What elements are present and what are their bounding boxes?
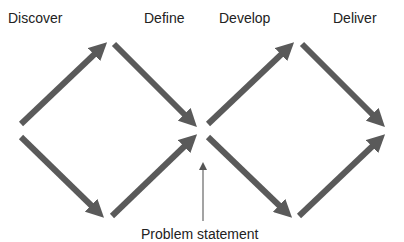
- arrow-discover-up: [21, 48, 101, 124]
- arrow-define-up: [112, 140, 191, 216]
- arrow-discover-down: [21, 137, 98, 212]
- annotation-problem-statement: Problem statement: [141, 226, 259, 242]
- arrow-define-down: [114, 44, 191, 121]
- arrow-develop-down: [208, 137, 286, 212]
- arrow-deliver-up: [299, 140, 379, 216]
- arrow-deliver-down: [302, 44, 379, 121]
- diagram-arrows: [0, 0, 404, 242]
- arrow-develop-up: [208, 48, 288, 124]
